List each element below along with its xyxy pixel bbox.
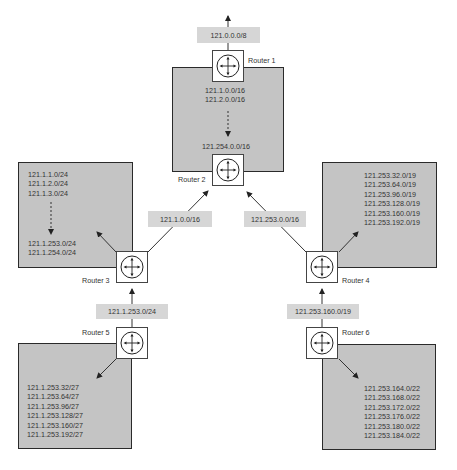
router-icon: [309, 254, 335, 280]
subnet-entry: 121.253.96.0/19: [364, 190, 420, 199]
subnet-entry: 121.1.254.0/24: [28, 248, 76, 257]
advert-r5-to-r3: 121.1.253.0/24: [96, 304, 168, 319]
subnet-entry: 121.253.168.0/22: [364, 393, 420, 402]
subnet-entry: 121.2.0.0/16: [205, 95, 245, 104]
network-bottom-left-list: 121.1.253.32/27 121.1.253.64/27 121.1.25…: [27, 383, 83, 439]
subnet-entry: 121.253.184.0/22: [364, 431, 420, 440]
router-5: [116, 327, 148, 359]
network-top-first-list: 121.1.0.0/16 121.2.0.0/16: [205, 86, 245, 105]
subnet-entry: 121.1.253.128/27: [27, 411, 83, 420]
router-4-label: Router 4: [342, 276, 370, 285]
subnet-entry: 121.253.172.0/22: [364, 403, 420, 412]
advert-r6-to-r4: 121.253.160.0/19: [287, 304, 359, 319]
subnet-entry: 121.253.64.0/19: [364, 180, 420, 189]
subnet-entry: 121.1.253.64/27: [27, 392, 83, 401]
router-1-label: Router 1: [248, 56, 276, 65]
router-4: [306, 251, 338, 283]
subnet-entry: 121.1.253.160/27: [27, 421, 83, 430]
subnet-entry: 121.1.253.32/27: [27, 383, 83, 392]
subnet-entry: 121.1.1.0/24: [28, 170, 68, 179]
subnet-entry: 121.253.176.0/22: [364, 412, 420, 421]
subnet-entry: 121.1.253.192/27: [27, 430, 83, 439]
subnet-entry: 121.253.164.0/22: [364, 384, 420, 393]
router-3: [116, 251, 148, 283]
subnet-entry: 121.1.253.0/24: [28, 239, 76, 248]
subnet-entry: 121.253.192.0/19: [364, 218, 420, 227]
router-6-label: Router 6: [342, 328, 370, 337]
subnet-entry: 121.254.0.0/16: [202, 142, 250, 151]
router-icon: [215, 53, 241, 79]
router-2: [212, 154, 244, 186]
router-6: [306, 327, 338, 359]
router-icon: [119, 330, 145, 356]
router-3-label: Router 3: [82, 276, 110, 285]
subnet-entry: 121.1.2.0/24: [28, 179, 68, 188]
network-left-first-list: 121.1.1.0/24 121.1.2.0/24 121.1.3.0/24: [28, 170, 68, 198]
router-5-label: Router 5: [82, 328, 110, 337]
router-1: [212, 50, 244, 82]
advert-r3-to-r2: 121.1.0.0/16: [148, 211, 212, 227]
subnet-entry: 121.1.253.96/27: [27, 402, 83, 411]
subnet-entry: 121.253.32.0/19: [364, 171, 420, 180]
network-top-last-list: 121.254.0.0/16: [202, 142, 250, 151]
network-left-last-list: 121.1.253.0/24 121.1.254.0/24: [28, 239, 76, 258]
advert-r1-up: 121.0.0.0/8: [197, 27, 260, 43]
subnet-entry: 121.1.0.0/16: [205, 86, 245, 95]
subnet-entry: 121.253.160.0/19: [364, 209, 420, 218]
router-icon: [119, 254, 145, 280]
network-right-list: 121.253.32.0/19 121.253.64.0/19 121.253.…: [364, 171, 420, 227]
router-icon: [309, 330, 335, 356]
subnet-entry: 121.253.128.0/19: [364, 199, 420, 208]
subnet-entry: 121.1.3.0/24: [28, 189, 68, 198]
router-2-label: Router 2: [178, 175, 206, 184]
network-bottom-right-list: 121.253.164.0/22 121.253.168.0/22 121.25…: [364, 384, 420, 440]
advert-r4-to-r2: 121.253.0.0/16: [244, 211, 306, 227]
router-icon: [215, 157, 241, 183]
subnet-entry: 121.253.180.0/22: [364, 422, 420, 431]
